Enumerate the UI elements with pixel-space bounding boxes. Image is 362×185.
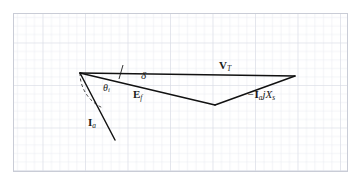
label-ef-sub: f [140,93,142,102]
phasor-diagram-figure: VT −IajXs Ef δ θi Ia [0,0,362,185]
label-theta-sub: i [108,86,110,93]
label-iajxs-sub2: s [272,93,275,102]
graph-paper-grid [13,13,348,172]
label-ia: Ia [88,117,96,129]
label-ef: Ef [133,89,142,101]
phasor-diagram-canvas [0,0,362,185]
label-vt-sub: T [227,64,231,73]
label-theta: θi [103,83,110,94]
label-vt: VT [219,60,231,72]
label-iajxs: −IajXs [247,89,275,101]
label-delta: δ [141,70,146,81]
label-ia-sub: a [92,121,96,130]
label-iajxs-mid: jX [262,88,272,100]
label-vt-main: V [219,59,227,71]
